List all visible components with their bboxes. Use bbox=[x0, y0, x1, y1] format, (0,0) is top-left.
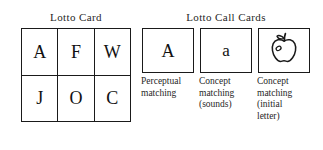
lotto-cell-r2c1: J bbox=[22, 76, 58, 123]
lotto-cell-r1c2: F bbox=[58, 29, 94, 76]
lotto-call-cards-title: Lotto Call Cards bbox=[142, 11, 310, 24]
call-card-lowercase-letter: a bbox=[200, 28, 252, 73]
caption-line: matching bbox=[199, 88, 255, 100]
caption-perceptual-matching: Perceptual matching bbox=[141, 76, 199, 148]
caption-line: (initial bbox=[257, 99, 313, 111]
lotto-card-title: Lotto Card bbox=[21, 11, 131, 24]
call-card-uppercase-letter: A bbox=[142, 28, 194, 73]
call-card-picture bbox=[258, 28, 310, 73]
lotto-matching-figure: Lotto Card A F W J O C Lotto Call Cards … bbox=[0, 0, 323, 150]
lotto-cell-r1c1: A bbox=[22, 29, 58, 76]
caption-concept-matching-sounds: Concept matching (sounds) bbox=[199, 76, 257, 148]
lotto-call-cards-row: A a bbox=[142, 28, 310, 73]
call-card-glyph-uppercase: A bbox=[162, 42, 175, 60]
call-card-glyph-lowercase: a bbox=[222, 42, 230, 59]
call-card-captions-row: Perceptual matching Concept matching (so… bbox=[141, 76, 316, 148]
lotto-cell-r1c3: W bbox=[95, 29, 131, 76]
caption-line: matching bbox=[257, 88, 313, 100]
lotto-card-grid: A F W J O C bbox=[21, 28, 131, 122]
caption-concept-matching-initial-letter: Concept matching (initial letter) bbox=[257, 76, 315, 148]
caption-line: Concept bbox=[257, 76, 313, 88]
caption-line: letter) bbox=[257, 111, 313, 123]
caption-line: (sounds) bbox=[199, 99, 255, 111]
caption-line: Perceptual bbox=[141, 76, 197, 88]
caption-line: matching bbox=[141, 88, 197, 100]
apple-icon bbox=[268, 32, 300, 70]
lotto-cell-r2c3: C bbox=[95, 76, 131, 123]
lotto-cell-r2c2: O bbox=[58, 76, 94, 123]
caption-line: Concept bbox=[199, 76, 255, 88]
